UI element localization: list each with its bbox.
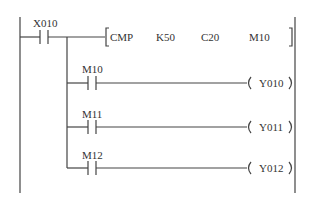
coil-y010-right: [289, 77, 292, 89]
coil-y010-label: Y010: [259, 78, 283, 89]
coil-y011-label: Y011: [259, 122, 283, 133]
cmp-operand-1: K50: [156, 32, 175, 43]
contact-m12-label: M12: [82, 150, 103, 161]
contact-m11-symbol: [88, 120, 96, 134]
contact-m10-label: M10: [82, 64, 103, 75]
cmp-left-bracket: [106, 28, 109, 46]
cmp-operand-3: M10: [249, 32, 270, 43]
contact-m11-label: M11: [82, 109, 102, 120]
coil-y012-right: [289, 162, 292, 174]
contact-m10-symbol: [88, 76, 96, 90]
coil-y011-right: [289, 121, 292, 133]
cmp-operand-2: C20: [201, 32, 219, 43]
coil-y011-left: [249, 121, 252, 133]
coil-y010-left: [249, 77, 252, 89]
contact-m12-symbol: [88, 161, 96, 175]
coil-y012-left: [249, 162, 252, 174]
ladder-diagram: X010 CMP K50 C20 M10 M10 Y010 M11 Y011 M…: [0, 0, 310, 199]
contact-x010-symbol: [40, 30, 48, 44]
coil-y012-label: Y012: [259, 163, 283, 174]
contact-x010-label: X010: [33, 18, 57, 29]
cmp-mnemonic: CMP: [110, 32, 133, 43]
cmp-right-bracket: [289, 28, 292, 46]
